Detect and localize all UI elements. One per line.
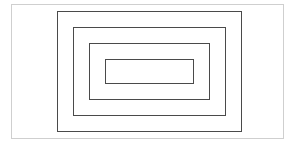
nested-rectangle-4 — [105, 59, 194, 84]
